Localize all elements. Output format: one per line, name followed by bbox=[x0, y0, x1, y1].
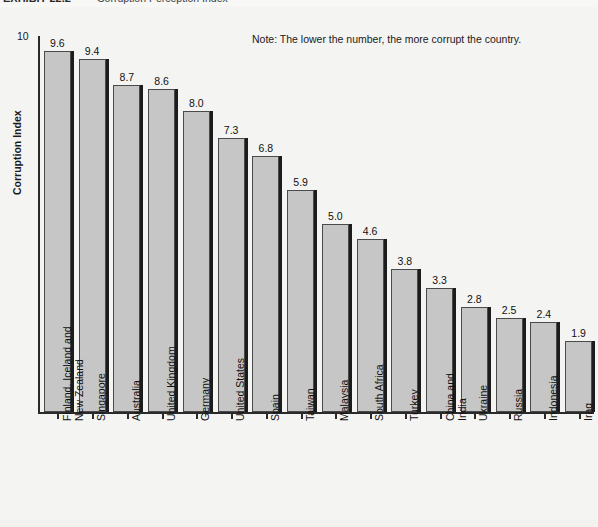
x-category-line: Australia bbox=[130, 380, 142, 421]
bar-value-label: 5.9 bbox=[293, 176, 308, 188]
x-axis-tick bbox=[509, 414, 511, 419]
x-axis-tick bbox=[266, 414, 268, 419]
x-category-line: United Kingdom bbox=[165, 346, 177, 421]
x-category-label: Iraq bbox=[583, 403, 595, 421]
x-category-label: Russia bbox=[513, 389, 525, 421]
x-axis-tick bbox=[579, 414, 581, 419]
bar-rect bbox=[565, 341, 592, 412]
bar-value-label: 6.8 bbox=[259, 142, 274, 154]
bar-rect bbox=[113, 85, 140, 412]
x-category-label: Malaysia bbox=[339, 380, 351, 421]
x-category-line: Finland, Iceland and bbox=[61, 326, 73, 421]
bar-4 bbox=[183, 111, 210, 412]
bar-value-label: 5.0 bbox=[328, 210, 343, 222]
bar-15 bbox=[565, 341, 592, 412]
x-category-label: Australia bbox=[131, 380, 143, 421]
x-category-label: Finland, Iceland andNew Zealand bbox=[62, 326, 85, 421]
x-category-line: Taiwan bbox=[304, 388, 316, 421]
x-axis-tick bbox=[92, 414, 94, 419]
x-axis-tick bbox=[301, 414, 303, 419]
x-axis-tick bbox=[57, 414, 59, 419]
x-axis-tick bbox=[162, 414, 164, 419]
x-category-line: India bbox=[456, 373, 468, 421]
x-axis-tick bbox=[231, 414, 233, 419]
x-category-label: Spain bbox=[270, 394, 282, 421]
bar-2 bbox=[113, 85, 140, 412]
x-category-label: Singapore bbox=[96, 373, 108, 421]
bar-6 bbox=[252, 156, 279, 412]
x-category-line: Germany bbox=[199, 378, 211, 421]
x-category-label: Ukraine bbox=[478, 385, 490, 421]
exhibit-title: Corruption Perception Index bbox=[97, 0, 228, 4]
bar-value-label: 3.3 bbox=[432, 274, 447, 286]
x-category-label: Taiwan bbox=[305, 388, 317, 421]
x-axis-tick bbox=[405, 414, 407, 419]
bar-value-label: 8.0 bbox=[189, 97, 204, 109]
x-category-line: Indonesia bbox=[547, 375, 559, 421]
bar-value-label: 9.4 bbox=[85, 45, 100, 57]
x-category-line: Singapore bbox=[95, 373, 107, 421]
y-axis-label: Corruption Index bbox=[11, 110, 23, 195]
bar-value-label: 7.3 bbox=[224, 124, 239, 136]
x-category-line: Iraq bbox=[582, 403, 594, 421]
x-category-line: Ukraine bbox=[477, 385, 489, 421]
x-category-line: Russia bbox=[512, 389, 524, 421]
x-category-line: China and bbox=[444, 373, 456, 421]
bar-value-label: 8.6 bbox=[154, 75, 169, 87]
x-category-line: United States bbox=[234, 358, 246, 421]
x-category-label: United States bbox=[235, 358, 247, 421]
bar-value-label: 9.6 bbox=[50, 37, 65, 49]
bar-rect bbox=[252, 156, 279, 412]
bar-value-label: 4.6 bbox=[363, 225, 378, 237]
x-category-label: Indonesia bbox=[548, 375, 560, 421]
x-category-line: Malaysia bbox=[338, 380, 350, 421]
x-category-line: New Zealand bbox=[74, 326, 86, 421]
plot-area: 9.69.48.78.68.07.36.85.95.04.63.83.32.82… bbox=[40, 36, 596, 412]
x-category-label: United Kingdom bbox=[166, 346, 178, 421]
exhibit-number: EXHIBIT 22.2 bbox=[3, 0, 71, 4]
bar-value-label: 1.9 bbox=[571, 327, 586, 339]
x-category-line: South Africa bbox=[373, 364, 385, 421]
x-category-label: China andIndia bbox=[445, 373, 468, 421]
x-axis-tick bbox=[544, 414, 546, 419]
chart-figure: Note: The lower the number, the more cor… bbox=[0, 7, 598, 520]
x-axis-tick bbox=[440, 414, 442, 419]
bar-value-label: 2.4 bbox=[537, 308, 552, 320]
exhibit-heading-strip: EXHIBIT 22.2 Corruption Perception Index bbox=[0, 0, 598, 7]
bar-7 bbox=[287, 190, 314, 412]
x-category-label: South Africa bbox=[374, 364, 386, 421]
bar-value-label: 2.5 bbox=[502, 304, 517, 316]
x-category-line: Spain bbox=[269, 394, 281, 421]
bar-value-label: 3.8 bbox=[398, 255, 413, 267]
x-category-line: Turkey bbox=[408, 389, 420, 421]
x-axis-tick bbox=[370, 414, 372, 419]
x-category-label: Turkey bbox=[409, 389, 421, 421]
x-category-label: Germany bbox=[200, 378, 212, 421]
bar-rect bbox=[287, 190, 314, 412]
bar-value-label: 8.7 bbox=[120, 71, 135, 83]
bar-value-label: 2.8 bbox=[467, 293, 482, 305]
y-axis-tick-label-10: 10 bbox=[17, 30, 29, 42]
x-axis-tick bbox=[127, 414, 129, 419]
bar-rect bbox=[183, 111, 210, 412]
